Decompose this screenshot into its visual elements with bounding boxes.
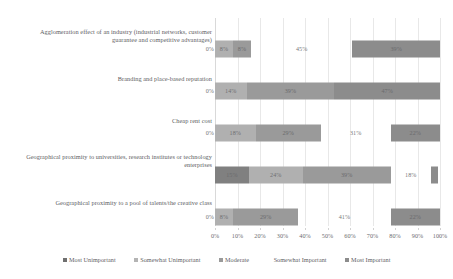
legend-item[interactable]: Most Important <box>345 256 391 263</box>
x-axis-tick-label: 90% <box>412 232 423 239</box>
plot-area: 0%8%8%45%39%0%14%39%47%0%18%29%31%22%15%… <box>215 18 440 226</box>
bar-segment-value: 31% <box>350 130 361 136</box>
category-label-2: Cheap rent cost <box>14 117 212 125</box>
legend-swatch-icon <box>134 258 138 262</box>
x-axis-tick <box>328 228 329 230</box>
bar-segment-value: 22% <box>410 130 421 136</box>
bar-segment: 8% <box>215 208 233 225</box>
bar-segment-value: 39% <box>341 172 352 178</box>
bar-segment: 39% <box>303 166 391 183</box>
x-axis-tick <box>238 228 239 230</box>
x-axis-tick-label: 30% <box>277 232 288 239</box>
x-axis-tick-label: 70% <box>367 232 378 239</box>
bar-row: 0%8%8%45%39% <box>215 28 440 70</box>
bar-segment-value: 41% <box>339 214 350 220</box>
bar-segment: 41% <box>298 208 390 225</box>
x-axis-tick-label: 0% <box>211 232 219 239</box>
x-axis-tick-label: 40% <box>299 232 310 239</box>
legend-label: Most Important <box>351 256 390 263</box>
x-axis-tick <box>283 228 284 230</box>
legend-label: Somewhat Unimportant <box>140 256 200 263</box>
legend-swatch-icon <box>267 258 271 262</box>
x-axis-tick <box>418 228 419 230</box>
bar-segment: 18% <box>215 124 256 141</box>
bar-segment: 14% <box>215 82 247 99</box>
bar-segment-value: 24% <box>270 172 281 178</box>
bar-segment: 22% <box>391 208 441 225</box>
x-axis-tick-label: 10% <box>232 232 243 239</box>
x-axis-tick-label: 100% <box>433 232 447 239</box>
x-axis-tick-label: 60% <box>344 232 355 239</box>
stacked-bar: 0%8%29%41%22% <box>215 208 440 225</box>
bar-segment-value: 8% <box>220 46 228 52</box>
legend-label: Moderate <box>225 256 249 263</box>
bar-segment-value: 0% <box>206 88 214 94</box>
chart-legend: Most UnimportantSomewhat UnimportantMode… <box>0 256 453 263</box>
bar-segment-value: 0% <box>206 214 214 220</box>
legend-item[interactable]: Moderate <box>219 256 250 263</box>
bar-segment-value: 39% <box>285 88 296 94</box>
x-axis-tick <box>305 228 306 230</box>
bar-segment: 29% <box>233 208 298 225</box>
x-axis-tick <box>395 228 396 230</box>
x-axis-tick <box>260 228 261 230</box>
stacked-bar: 15%24%39%18% <box>215 166 440 183</box>
bar-segment: 39% <box>247 82 335 99</box>
bar-segment: 24% <box>249 166 303 183</box>
bar-segment-value: 18% <box>230 130 241 136</box>
bar-segment: 8% <box>215 40 233 57</box>
category-label-1: Branding and place-based reputation <box>14 75 212 83</box>
category-label-0: Agglomeration effect of an industry (ind… <box>14 28 212 44</box>
bar-segment-value: 29% <box>282 130 293 136</box>
legend-swatch-icon <box>345 258 349 262</box>
x-axis-tick <box>215 228 216 230</box>
bar-segment: 15% <box>215 166 249 183</box>
legend-item[interactable]: Somewhat Important <box>267 256 326 263</box>
x-axis-tick <box>440 228 441 230</box>
category-label-4: Geographical proximity to a pool of tale… <box>14 199 212 207</box>
bar-segment: 8% <box>233 40 251 57</box>
x-axis: 0%10%20%30%40%50%60%70%80%90%100% <box>215 228 440 242</box>
stacked-bar: 0%14%39%47% <box>215 82 440 99</box>
bar-segment: 47% <box>334 82 440 99</box>
bar-segment-value: 45% <box>296 46 307 52</box>
bar-segment-value: 22% <box>410 214 421 220</box>
bar-segment-value: 14% <box>225 88 236 94</box>
bar-segment-value: 0% <box>206 130 214 136</box>
legend-swatch-icon <box>219 258 223 262</box>
bar-segment: 39% <box>352 40 440 57</box>
bar-segment: 29% <box>256 124 321 141</box>
bar-segment-value: 8% <box>238 46 246 52</box>
gridline-100 <box>440 18 441 226</box>
x-axis-tick-label: 50% <box>322 232 333 239</box>
legend-item[interactable]: Most Unimportant <box>63 256 116 263</box>
bar-segment: 18% <box>391 166 432 183</box>
bar-segment-value: 18% <box>405 172 416 178</box>
bar-segment: 31% <box>321 124 391 141</box>
category-label-3: Geographical proximity to universities, … <box>14 153 212 169</box>
stacked-bar: 0%18%29%31%22% <box>215 124 440 141</box>
legend-item[interactable]: Somewhat Unimportant <box>134 256 201 263</box>
bar-segment-value: 8% <box>220 214 228 220</box>
legend-label: Most Unimportant <box>69 256 116 263</box>
bar-segment-value: 15% <box>226 172 237 178</box>
bar-segment-value: 0% <box>206 46 214 52</box>
stacked-bar: 0%8%8%45%39% <box>215 40 440 57</box>
bar-segment-value: 29% <box>260 214 271 220</box>
bar-segment <box>431 166 438 183</box>
legend-swatch-icon <box>63 258 67 262</box>
x-axis-tick <box>373 228 374 230</box>
bar-segment: 22% <box>391 124 441 141</box>
legend-label: Somewhat Important <box>274 256 327 263</box>
stacked-bar-chart-figure: Agglomeration effect of an industry (ind… <box>0 0 453 279</box>
bar-row: 15%24%39%18% <box>215 154 440 196</box>
bar-segment: 45% <box>251 40 352 57</box>
bar-row: 0%14%39%47% <box>215 70 440 112</box>
x-axis-tick-label: 80% <box>389 232 400 239</box>
x-axis-tick <box>350 228 351 230</box>
bar-row: 0%18%29%31%22% <box>215 112 440 154</box>
x-axis-tick-label: 20% <box>254 232 265 239</box>
bar-segment-value: 39% <box>390 46 401 52</box>
bar-segment-value: 47% <box>381 88 392 94</box>
